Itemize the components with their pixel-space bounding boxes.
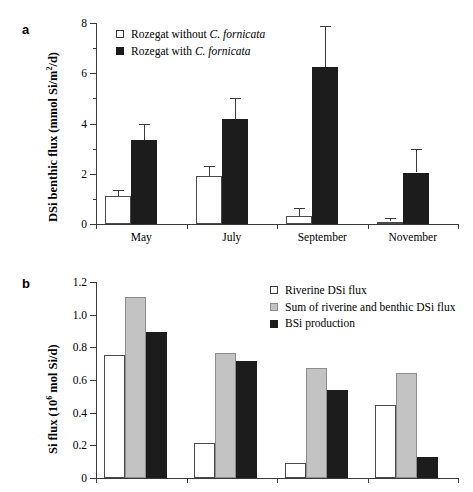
- bar: [236, 361, 257, 478]
- x-axis-tick: [96, 478, 97, 483]
- bar: [375, 405, 396, 478]
- panel-a-letter: a: [22, 22, 29, 37]
- x-axis-tick: [368, 224, 369, 229]
- legend-item-label: Riverine DSi flux: [285, 284, 367, 297]
- panel-a-y-axis-title: DSi benthic flux (mmol Si/m2/d): [46, 52, 61, 222]
- x-axis-tick: [187, 224, 188, 229]
- legend-item: Rozegat with C. fornicata: [116, 45, 265, 58]
- error-bar: [209, 166, 210, 176]
- legend-item: BSi production: [270, 317, 456, 330]
- bar: [396, 373, 417, 479]
- legend-item-label: Rozegat without C. fornicata: [131, 28, 265, 41]
- x-axis-tick: [96, 224, 97, 229]
- y-axis-tick-label: 1.2: [73, 276, 96, 288]
- legend-swatch-open-icon: [270, 286, 278, 294]
- y-axis-minor-tick: [93, 48, 97, 49]
- bar: [285, 463, 306, 478]
- panel-a-y-axis-title-main: DSi benthic flux (mmol Si/m: [46, 71, 60, 222]
- x-axis-category-label: September: [298, 231, 347, 243]
- panel-b-y-axis-title-main: Si flux (10: [46, 400, 60, 454]
- error-bar-cap: [294, 208, 305, 209]
- error-bar-cap: [385, 218, 396, 219]
- bar: [222, 119, 248, 224]
- panel-b-legend: Riverine DSi fluxSum of riverine and ben…: [270, 284, 456, 334]
- error-bar: [416, 149, 417, 173]
- legend-item-label: Sum of riverine and benthic DSi flux: [285, 301, 456, 314]
- bar: [403, 173, 429, 225]
- x-axis-tick: [187, 478, 188, 483]
- bar: [105, 196, 131, 224]
- legend-item-label: BSi production: [285, 317, 355, 330]
- bar: [312, 67, 338, 224]
- panel-b-y-axis-title-sup: 6: [45, 396, 54, 400]
- error-bar-cap: [320, 26, 331, 27]
- bar: [196, 176, 222, 224]
- panel-b-y-axis-line: [96, 282, 97, 478]
- error-bar-cap: [230, 98, 241, 99]
- error-bar-cap: [113, 190, 124, 191]
- y-axis-tick-label: 8: [81, 17, 96, 29]
- legend-item: Rozegat without C. fornicata: [116, 28, 265, 41]
- legend-swatch-open-icon: [116, 30, 124, 38]
- x-axis-tick: [368, 478, 369, 483]
- y-axis-tick-label: 0.2: [73, 439, 96, 451]
- y-axis-tick-label: 0.8: [73, 341, 96, 353]
- x-axis-category-label: July: [222, 231, 241, 243]
- panel-b: b Si flux (106 mol Si/d) 00.20.40.60.81.…: [0, 252, 473, 492]
- bar: [131, 140, 157, 224]
- error-bar-cap: [411, 149, 422, 150]
- legend-swatch-filled-icon: [116, 47, 124, 55]
- bar: [286, 216, 312, 224]
- legend-item-label: Rozegat with C. fornicata: [131, 45, 250, 58]
- y-axis-minor-tick: [93, 199, 97, 200]
- y-axis-tick-label: 2: [81, 168, 96, 180]
- panel-a-y-axis-title-sup: 2: [45, 67, 54, 71]
- y-axis-tick-label: 0.6: [73, 374, 96, 386]
- error-bar: [235, 98, 236, 119]
- panel-a-y-axis-line: [96, 23, 97, 224]
- panel-a-y-axis-title-tail: /d): [46, 52, 60, 67]
- bar: [417, 457, 438, 478]
- figure-root: a DSi benthic flux (mmol Si/m2/d) 02468M…: [0, 0, 473, 492]
- x-axis-category-label: May: [131, 231, 152, 243]
- bar: [215, 353, 236, 478]
- y-axis-tick-label: 0: [81, 472, 96, 484]
- error-bar: [144, 124, 145, 141]
- bar: [306, 368, 327, 478]
- bar: [125, 297, 146, 478]
- error-bar-cap: [204, 166, 215, 167]
- y-axis-tick-label: 0.4: [73, 407, 96, 419]
- bar: [377, 222, 403, 225]
- bar: [194, 443, 215, 478]
- x-axis-tick: [277, 478, 278, 483]
- panel-b-y-axis-title-tail: mol Si/d): [46, 344, 60, 395]
- error-bar: [325, 26, 326, 67]
- bar: [146, 332, 167, 478]
- x-axis-tick: [277, 224, 278, 229]
- legend-swatch-grey-icon: [270, 303, 278, 311]
- panel-a: a DSi benthic flux (mmol Si/m2/d) 02468M…: [0, 0, 473, 252]
- y-axis-tick-label: 0: [81, 218, 96, 230]
- x-axis-tick: [458, 224, 459, 229]
- y-axis-tick-label: 1.0: [73, 309, 96, 321]
- legend-item: Sum of riverine and benthic DSi flux: [270, 301, 456, 314]
- error-bar: [299, 208, 300, 217]
- y-axis-minor-tick: [93, 149, 97, 150]
- panel-a-legend: Rozegat without C. fornicataRozegat with…: [116, 28, 265, 61]
- x-axis-category-label: November: [388, 231, 437, 243]
- legend-swatch-filled-icon: [270, 320, 278, 328]
- panel-b-letter: b: [22, 276, 30, 291]
- panel-b-y-axis-title: Si flux (106 mol Si/d): [46, 344, 61, 454]
- x-axis-tick: [458, 478, 459, 483]
- y-axis-minor-tick: [93, 98, 97, 99]
- y-axis-tick-label: 4: [81, 118, 96, 130]
- bar: [104, 355, 125, 478]
- error-bar-cap: [139, 124, 150, 125]
- legend-item: Riverine DSi flux: [270, 284, 456, 297]
- bar: [327, 390, 348, 478]
- y-axis-tick-label: 6: [81, 67, 96, 79]
